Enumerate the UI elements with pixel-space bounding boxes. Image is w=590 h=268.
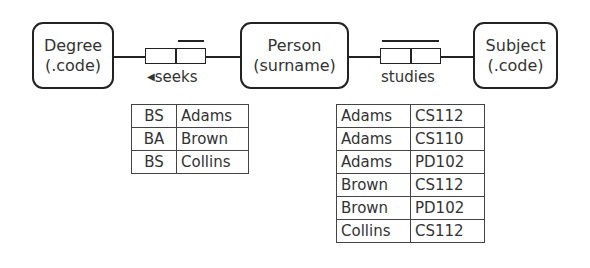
- table-cell: PD102: [411, 197, 485, 220]
- table-cell: CS112: [411, 220, 485, 243]
- entity-subject-ref: (.code): [487, 56, 543, 76]
- table-cell: BA: [132, 128, 177, 151]
- fact-studies-roles: [380, 48, 441, 64]
- table-row: Brown CS112: [337, 174, 485, 197]
- entity-person: Person (surname): [240, 22, 349, 89]
- entity-subject-name: Subject: [486, 36, 546, 56]
- table-cell: Brown: [337, 197, 411, 220]
- table-cell: CS112: [411, 105, 485, 128]
- connector-seeks-person: [206, 56, 240, 58]
- role-divider: [175, 49, 177, 63]
- entity-person-name: Person: [268, 36, 322, 56]
- table-row: Adams PD102: [337, 151, 485, 174]
- studies-population-table: Adams CS112 Adams CS110 Adams PD102 Brow…: [336, 104, 485, 243]
- seeks-population-table: BS Adams BA Brown BS Collins: [131, 104, 249, 174]
- table-row: Collins CS112: [337, 220, 485, 243]
- fact-studies-reading: studies: [381, 68, 435, 86]
- entity-degree-name: Degree: [44, 36, 102, 56]
- fact-seeks-reading: seeks: [155, 68, 198, 86]
- table-cell: Adams: [337, 128, 411, 151]
- table-cell: PD102: [411, 151, 485, 174]
- entity-person-ref: (surname): [253, 56, 336, 76]
- table-cell: Collins: [337, 220, 411, 243]
- table-row: BS Collins: [132, 151, 249, 174]
- table-cell: Adams: [337, 105, 411, 128]
- table-cell: CS110: [411, 128, 485, 151]
- table-row: BA Brown: [132, 128, 249, 151]
- fact-seeks-roles: [145, 48, 206, 64]
- table-cell: CS112: [411, 174, 485, 197]
- fact-studies-label: studies: [381, 68, 435, 86]
- uniqueness-bar-seeks: [178, 40, 204, 42]
- connector-degree-seeks: [114, 56, 145, 58]
- table-row: Adams CS112: [337, 105, 485, 128]
- table-cell: BS: [132, 151, 177, 174]
- connector-person-studies: [349, 56, 380, 58]
- fact-seeks-label: ◀seeks: [147, 68, 197, 86]
- table-row: Brown PD102: [337, 197, 485, 220]
- role-divider: [410, 49, 412, 63]
- entity-degree: Degree (.code): [32, 22, 114, 89]
- table-cell: Adams: [177, 105, 249, 128]
- reading-direction-icon: ◀: [147, 71, 155, 82]
- entity-subject: Subject (.code): [473, 22, 558, 89]
- entity-degree-ref: (.code): [45, 56, 101, 76]
- table-row: Adams CS110: [337, 128, 485, 151]
- uniqueness-bar-studies: [382, 40, 439, 42]
- table-cell: Brown: [337, 174, 411, 197]
- table-cell: Collins: [177, 151, 249, 174]
- table-cell: Adams: [337, 151, 411, 174]
- table-row: BS Adams: [132, 105, 249, 128]
- table-cell: Brown: [177, 128, 249, 151]
- connector-studies-subject: [441, 56, 473, 58]
- table-cell: BS: [132, 105, 177, 128]
